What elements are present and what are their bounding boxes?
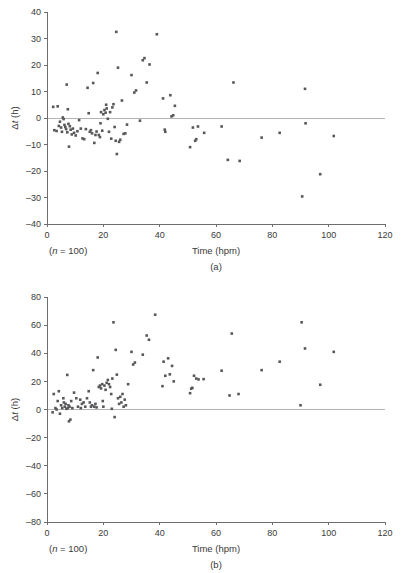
data-point — [124, 132, 127, 135]
data-point — [100, 387, 103, 390]
figure-page: –40–30–20–10010203040020406080100120Δt (… — [0, 0, 411, 573]
data-point — [164, 130, 167, 133]
data-point — [130, 351, 133, 354]
data-point — [121, 99, 124, 102]
data-point — [75, 397, 78, 400]
data-point — [202, 378, 205, 381]
data-point — [69, 418, 72, 421]
y-tick-label: 60 — [31, 320, 41, 330]
data-point — [116, 153, 119, 156]
data-point — [113, 126, 116, 129]
data-point — [110, 393, 113, 396]
data-point — [56, 105, 59, 108]
data-point — [70, 133, 73, 136]
data-point — [167, 357, 170, 360]
data-point — [260, 369, 263, 372]
x-tick-label: 80 — [267, 528, 277, 538]
data-point — [59, 120, 62, 123]
data-point — [174, 105, 177, 108]
data-point — [87, 112, 90, 115]
data-point — [94, 134, 97, 137]
data-point — [68, 145, 71, 148]
data-point — [58, 390, 61, 393]
data-point — [61, 130, 64, 133]
y-axis-title-unit: (h) — [9, 106, 20, 120]
data-point — [192, 126, 195, 129]
data-point — [101, 129, 104, 132]
data-point — [99, 122, 102, 125]
data-point — [112, 321, 115, 324]
data-point — [52, 106, 55, 109]
data-point — [92, 82, 95, 85]
data-point — [117, 66, 120, 69]
chart-panel-b: –80–60–40–20020406080020406080100120Δt (… — [0, 280, 411, 573]
data-point — [301, 195, 304, 198]
data-point — [130, 74, 133, 77]
data-point — [232, 81, 235, 84]
data-point — [60, 404, 63, 407]
x-axis-title: Time (hpm) — [192, 543, 240, 554]
x-tick-label: 0 — [44, 230, 49, 240]
data-point-group — [52, 31, 335, 198]
data-point — [220, 369, 223, 372]
data-point — [189, 392, 192, 395]
data-point — [102, 113, 105, 116]
data-point — [319, 383, 322, 386]
scatter-plot-b: –80–60–40–20020406080020406080100120Δt (… — [0, 280, 411, 573]
data-point — [172, 380, 175, 383]
data-point — [66, 374, 69, 377]
data-point — [134, 361, 137, 364]
x-tick-label: 100 — [321, 230, 336, 240]
data-point — [278, 132, 281, 135]
data-point — [121, 393, 124, 396]
data-point — [67, 123, 70, 126]
data-point — [105, 107, 108, 110]
data-point — [120, 401, 123, 404]
data-point — [80, 407, 83, 410]
data-point — [108, 130, 111, 133]
x-tick-label: 40 — [155, 230, 165, 240]
data-point — [197, 125, 200, 128]
data-point — [91, 132, 94, 135]
y-tick-label: 20 — [31, 377, 41, 387]
data-point — [116, 373, 119, 376]
note-value: = 100) — [57, 543, 87, 554]
data-point — [143, 57, 146, 60]
data-point — [193, 374, 196, 377]
data-point — [77, 405, 80, 408]
data-point — [95, 406, 98, 409]
y-tick-label: 40 — [31, 7, 41, 17]
data-point — [86, 86, 89, 89]
data-point — [104, 389, 107, 392]
data-point — [102, 405, 105, 408]
data-point — [90, 129, 93, 132]
data-point — [300, 321, 303, 324]
data-point — [107, 379, 110, 382]
data-point — [103, 109, 106, 112]
data-point — [52, 393, 55, 396]
data-point — [55, 408, 58, 411]
data-point — [86, 397, 89, 400]
data-point — [125, 404, 128, 407]
data-point — [148, 63, 151, 66]
data-point — [95, 130, 98, 133]
data-point — [104, 111, 107, 114]
data-point — [114, 139, 117, 142]
data-point — [103, 384, 106, 387]
data-point — [51, 411, 54, 414]
data-point — [89, 401, 92, 404]
data-point — [237, 393, 240, 396]
y-tick-label: 0 — [36, 113, 41, 123]
data-point — [99, 136, 102, 139]
y-tick-label: –60 — [26, 489, 41, 499]
data-point — [139, 119, 142, 122]
data-point — [73, 391, 76, 394]
scatter-plot-a: –40–30–20–10010203040020406080100120Δt (… — [0, 0, 411, 280]
data-point — [162, 360, 165, 363]
data-point — [172, 114, 175, 117]
data-point — [304, 347, 307, 350]
chart-panel-a: –40–30–20–10010203040020406080100120Δt (… — [0, 0, 411, 280]
data-point — [92, 369, 95, 372]
data-point — [127, 383, 130, 386]
data-point — [73, 132, 76, 135]
